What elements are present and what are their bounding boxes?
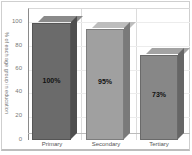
data-label: 95% [86, 78, 124, 85]
y-tick: 60 [6, 65, 22, 71]
x-tick-label: Secondary [86, 141, 126, 147]
bar-tertiary: 73% [140, 54, 184, 140]
y-tick: 100 [6, 18, 22, 24]
grid-line [81, 9, 82, 140]
bar-primary: 100% [32, 22, 78, 140]
grid-line [136, 9, 137, 140]
data-label: 73% [140, 91, 178, 98]
data-label: 100% [32, 77, 71, 84]
y-tick: 40 [6, 88, 22, 94]
x-tick-label: Tertiary [140, 141, 178, 147]
bar-secondary: 95% [86, 28, 130, 140]
y-tick: 0 [6, 136, 22, 142]
y-tick: 80 [6, 42, 22, 48]
y-tick: 20 [6, 112, 22, 118]
x-tick-label: Primary [32, 141, 72, 147]
